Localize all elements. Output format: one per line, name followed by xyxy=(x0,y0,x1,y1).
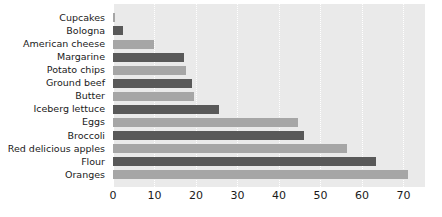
bar[interactable] xyxy=(113,105,219,114)
bar-row xyxy=(113,144,347,153)
bar-row xyxy=(113,66,186,75)
y-axis-label: Potato chips xyxy=(47,65,105,75)
bar-row xyxy=(113,105,219,114)
x-axis-tick-label: 0 xyxy=(110,189,117,203)
x-axis-tick-label: 50 xyxy=(313,189,327,203)
x-axis-tick-label: 60 xyxy=(355,189,369,203)
y-axis-label: Margarine xyxy=(57,52,105,62)
bar-row xyxy=(113,170,408,179)
x-axis-tick-label: 70 xyxy=(396,189,410,203)
bar[interactable] xyxy=(113,144,347,153)
y-axis-label: Flour xyxy=(81,157,105,167)
bar-row xyxy=(113,13,115,22)
x-axis-tick-labels: 010203040506070 xyxy=(0,189,442,209)
y-axis-label: Ground beef xyxy=(46,78,105,88)
y-axis-label: Eggs xyxy=(82,117,105,127)
bar[interactable] xyxy=(113,13,115,22)
bar-row xyxy=(113,79,192,88)
bar[interactable] xyxy=(113,131,304,140)
x-axis-tick-label: 40 xyxy=(272,189,286,203)
bar[interactable] xyxy=(113,53,184,62)
bar[interactable] xyxy=(113,26,123,35)
plot-area xyxy=(113,4,425,187)
y-axis-label: Red delicious apples xyxy=(8,144,105,154)
y-axis-label: American cheese xyxy=(23,39,105,49)
bar[interactable] xyxy=(113,92,194,101)
x-axis-tick-label: 20 xyxy=(189,189,203,203)
bar-row xyxy=(113,118,298,127)
y-axis-label: Broccoli xyxy=(67,131,105,141)
bar-chart: CupcakesBolognaAmerican cheeseMargarineP… xyxy=(0,0,442,217)
bar-row xyxy=(113,26,123,35)
bar-row xyxy=(113,131,304,140)
bar-row xyxy=(113,157,376,166)
y-axis-label: Butter xyxy=(75,91,105,101)
bar[interactable] xyxy=(113,118,298,127)
x-axis-tick-label: 30 xyxy=(230,189,244,203)
y-axis-label: Cupcakes xyxy=(59,13,105,23)
y-axis-category-labels: CupcakesBolognaAmerican cheeseMargarineP… xyxy=(0,4,109,187)
bar[interactable] xyxy=(113,79,192,88)
bar-row xyxy=(113,40,154,49)
y-axis-label: Bologna xyxy=(66,26,105,36)
bar[interactable] xyxy=(113,40,154,49)
bar-row xyxy=(113,53,184,62)
bar[interactable] xyxy=(113,170,408,179)
bar-row xyxy=(113,92,194,101)
y-axis-label: Iceberg lettuce xyxy=(33,104,105,114)
bar[interactable] xyxy=(113,66,186,75)
y-axis-label: Oranges xyxy=(65,170,105,180)
x-axis-tick-label: 10 xyxy=(147,189,161,203)
gridline-x-70 xyxy=(403,4,405,187)
bar[interactable] xyxy=(113,157,376,166)
